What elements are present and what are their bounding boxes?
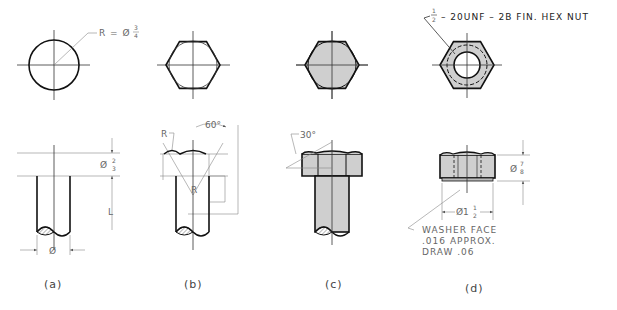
bolt-construction-figure: R = Ø 3 4 Ø 2 3 L Ø xyxy=(0,0,617,310)
caption-a: (a) xyxy=(44,278,62,291)
panel-d-front-view: Ø 7 8 Ø1 1 2 WASHER FACE .016 APPROX. DR… xyxy=(408,140,530,257)
panel-a-front-view: Ø 2 3 L Ø xyxy=(17,138,120,256)
panel-a: R = Ø 3 4 Ø 2 3 L Ø xyxy=(17,24,139,291)
thickness-dim: Ø xyxy=(510,164,517,174)
panel-c: 30° (c) xyxy=(286,31,368,291)
panel-b-top-view xyxy=(157,31,230,99)
washer-note-line3: DRAW .06 xyxy=(422,247,475,257)
svg-text:4: 4 xyxy=(134,32,138,39)
length-dim: L xyxy=(108,207,113,217)
svg-text:2: 2 xyxy=(112,157,116,164)
caption-c: (c) xyxy=(325,278,343,291)
panel-b-front-view: R R 60° xyxy=(160,120,238,250)
svg-text:8: 8 xyxy=(520,168,524,175)
nut-callout: – 20UNF – 2B FIN. HEX NUT xyxy=(441,12,589,22)
caption-b: (b) xyxy=(184,278,203,291)
shank-diameter-dim: Ø xyxy=(49,246,56,256)
svg-text:2: 2 xyxy=(432,16,436,23)
across-flats-dim: Ø1 xyxy=(456,207,469,217)
washer-note-line2: .016 APPROX. xyxy=(422,236,496,246)
inner-radius-label: R xyxy=(191,185,197,195)
angle-60-label: 60° xyxy=(205,120,221,130)
svg-text:1: 1 xyxy=(473,204,477,211)
svg-text:1: 1 xyxy=(432,7,436,14)
svg-text:7: 7 xyxy=(520,160,524,167)
panel-a-top-view: R = Ø 3 4 xyxy=(17,24,139,100)
caption-d: (d) xyxy=(465,282,484,295)
panel-c-top-view xyxy=(296,31,368,99)
svg-text:3: 3 xyxy=(134,24,138,31)
head-height-dim: Ø xyxy=(100,160,107,170)
radius-label: R xyxy=(161,129,167,139)
panel-d: 1 2 – 20UNF – 2B FIN. HEX NUT Ø 7 8 xyxy=(408,7,589,295)
panel-d-top-view: 1 2 – 20UNF – 2B FIN. HEX NUT xyxy=(424,7,589,98)
panel-c-front-view: 30° xyxy=(286,130,362,245)
svg-text:2: 2 xyxy=(473,212,477,219)
washer-note-line1: WASHER FACE xyxy=(422,225,497,235)
angle-30-label: 30° xyxy=(300,130,316,140)
svg-text:3: 3 xyxy=(112,165,116,172)
radius-note: R = Ø xyxy=(99,28,131,38)
panel-b: R R 60° (b) xyxy=(157,31,238,291)
